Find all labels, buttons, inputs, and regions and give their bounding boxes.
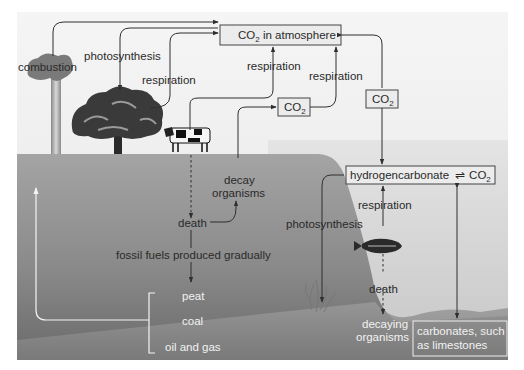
hydrogencarbonate-box: hydrogencarbonate⇌CO2 [346, 166, 495, 184]
label-respiration-decay: respiration [309, 70, 363, 82]
label-death-land: death [178, 217, 207, 229]
carbonates-label-line2: as limestones [417, 339, 488, 351]
label-decaying-organisms: organisms [356, 331, 409, 343]
label-respiration-sea: respiration [358, 199, 412, 211]
diagram-canvas: CO2 in atmosphere CO2 CO2 hydrogencarbon… [0, 0, 524, 370]
label-combustion: combustion [18, 61, 77, 73]
label-decaying: decaying [362, 318, 408, 330]
carbon-cycle-diagram: CO2 in atmosphere CO2 CO2 hydrogencarbon… [0, 0, 524, 370]
label-decay: decay [224, 174, 255, 186]
label-decay-organisms: organisms [212, 187, 265, 199]
label-coal: coal [182, 315, 203, 327]
co2-ocean-box: CO2 [366, 90, 398, 108]
label-fossil-fuels: fossil fuels produced gradually [116, 249, 271, 261]
label-photosynthesis-land: photosynthesis [84, 50, 161, 62]
label-photosynthesis-sea: photosynthesis [286, 218, 363, 230]
carbonates-label-line1: carbonates, such [417, 325, 505, 337]
co2-decay-box: CO2 [278, 98, 310, 116]
label-oil-and-gas: oil and gas [165, 341, 221, 353]
label-death-sea: death [369, 283, 398, 295]
label-respiration-cow: respiration [247, 60, 301, 72]
co2-atmosphere-box: CO2 in atmosphere [220, 25, 341, 45]
label-peat: peat [182, 290, 205, 302]
label-respiration-tree: respiration [142, 74, 196, 86]
